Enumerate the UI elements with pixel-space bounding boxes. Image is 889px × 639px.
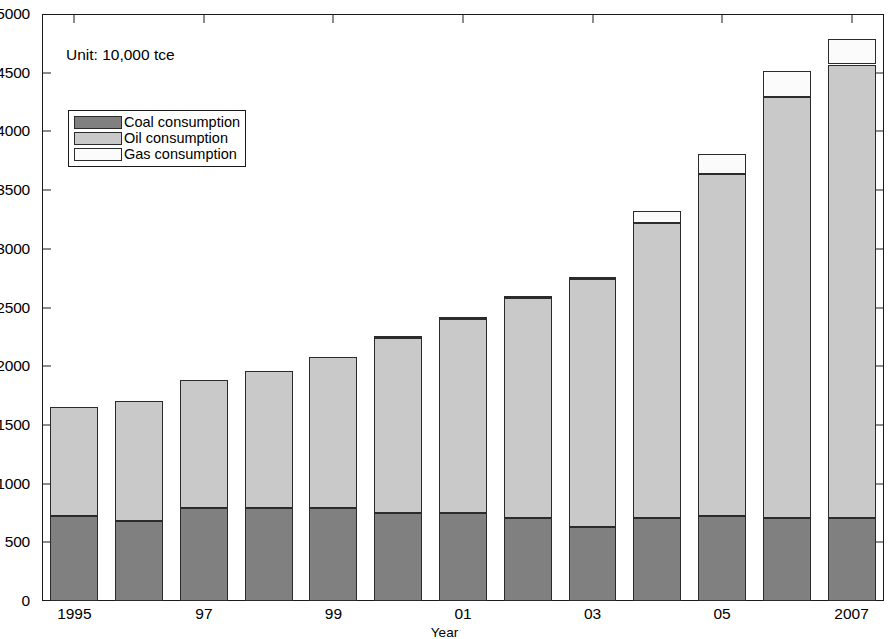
chart-legend: Coal consumptionOil consumptionGas consu… (68, 110, 246, 167)
bar-segment-oil (245, 371, 293, 508)
stacked-bar-chart: 0500100015002000250030003500400045005000… (0, 0, 889, 639)
bar-segment-gas (439, 317, 487, 319)
bar-segment-coal (439, 513, 487, 601)
legend-item-oil: Oil consumption (74, 131, 240, 146)
bar-segment-oil (180, 380, 228, 508)
y-axis-tick-mark (875, 542, 884, 543)
y-axis-tick-label: 2000 (0, 358, 30, 374)
y-axis-tick-label: 5000 (0, 6, 30, 22)
y-axis-tick-label: 3500 (0, 182, 30, 198)
y-axis-tick-label: 500 (0, 535, 30, 551)
y-axis-tick-mark (875, 307, 884, 308)
bar-segment-gas (504, 296, 552, 298)
x-axis-tick-label: 97 (195, 606, 212, 622)
bar-segment-coal (569, 527, 617, 601)
bar-segment-oil (439, 319, 487, 513)
x-axis-tick-label: 1995 (57, 606, 91, 622)
bar-segment-oil (633, 223, 681, 518)
bar-1996 (115, 401, 163, 601)
bar-2005 (698, 154, 746, 601)
legend-label: Oil consumption (124, 131, 228, 146)
x-axis-tick-label: 99 (325, 606, 342, 622)
legend-swatch-gas (74, 148, 122, 161)
bar-segment-oil (504, 298, 552, 518)
y-axis-tick-label: 1500 (0, 417, 30, 433)
bar-segment-oil (698, 174, 746, 517)
bar-segment-gas (698, 154, 746, 174)
x-axis-tick-mark (592, 14, 593, 23)
legend-swatch-coal (74, 116, 122, 129)
legend-item-gas: Gas consumption (74, 147, 240, 162)
x-axis-tick-mark (74, 14, 75, 23)
bar-segment-gas (569, 277, 617, 279)
y-axis-tick-label: 4000 (0, 124, 30, 140)
y-axis-tick-mark (42, 131, 51, 132)
legend-label: Coal consumption (124, 115, 240, 130)
y-axis-tick-mark (875, 131, 884, 132)
bar-1997 (180, 380, 228, 601)
y-axis-tick-mark (875, 72, 884, 73)
y-axis-tick-label: 1000 (0, 476, 30, 492)
legend-swatch-oil (74, 132, 122, 145)
x-axis-tick-label: 2007 (834, 606, 868, 622)
bar-segment-oil (309, 357, 357, 508)
y-axis-tick-label: 3000 (0, 241, 30, 257)
y-axis-tick-mark (875, 483, 884, 484)
bar-2004 (633, 211, 681, 601)
bar-2003 (569, 278, 617, 601)
unit-annotation: Unit: 10,000 tce (66, 47, 175, 63)
bar-segment-oil (374, 338, 422, 513)
bar-segment-gas (633, 211, 681, 223)
y-axis-tick-label: 4500 (0, 65, 30, 81)
bar-segment-gas (374, 336, 422, 338)
y-axis-tick-label: 0 (0, 593, 30, 609)
bar-segment-coal (50, 516, 98, 601)
y-axis-tick-mark (875, 190, 884, 191)
bar-segment-coal (115, 521, 163, 601)
bar-segment-gas (828, 39, 876, 65)
bar-segment-oil (50, 407, 98, 516)
bar-segment-coal (504, 518, 552, 601)
bar-segment-coal (633, 518, 681, 601)
y-axis-tick-mark (42, 307, 51, 308)
bar-1998 (245, 371, 293, 601)
x-axis-tick-mark (851, 14, 852, 23)
bar-1995 (50, 407, 98, 601)
bar-segment-gas (763, 71, 811, 97)
x-axis-tick-mark (463, 14, 464, 23)
bar-segment-oil (828, 65, 876, 518)
x-axis-tick-label: 05 (713, 606, 730, 622)
y-axis-tick-mark (42, 72, 51, 73)
y-axis-tick-label: 2500 (0, 300, 30, 316)
legend-label: Gas consumption (124, 147, 237, 162)
x-axis-tick-mark (203, 14, 204, 23)
y-axis-tick-mark (42, 366, 51, 367)
bar-segment-coal (180, 508, 228, 601)
y-axis-tick-mark (875, 366, 884, 367)
bar-segment-coal (245, 508, 293, 601)
legend-item-coal: Coal consumption (74, 115, 240, 130)
bar-segment-oil (763, 97, 811, 518)
bar-segment-coal (309, 508, 357, 601)
y-axis-tick-mark (875, 424, 884, 425)
y-axis-tick-mark (42, 248, 51, 249)
bar-segment-coal (374, 513, 422, 601)
x-axis-title: Year (0, 626, 889, 639)
x-axis-tick-mark (722, 14, 723, 23)
y-axis-tick-mark (875, 248, 884, 249)
bar-segment-coal (828, 518, 876, 601)
bar-2001 (439, 318, 487, 601)
bar-segment-coal (763, 518, 811, 601)
bar-segment-coal (698, 516, 746, 601)
bar-2002 (504, 296, 552, 601)
y-axis-tick-mark (42, 190, 51, 191)
bar-segment-oil (115, 401, 163, 521)
x-axis-tick-label: 03 (584, 606, 601, 622)
x-axis-tick-label: 01 (454, 606, 471, 622)
bar-2000 (374, 337, 422, 601)
bar-segment-oil (569, 279, 617, 527)
bar-1999 (309, 357, 357, 601)
x-axis-tick-mark (333, 14, 334, 23)
bar-2007 (828, 39, 876, 601)
bar-2006 (763, 71, 811, 601)
